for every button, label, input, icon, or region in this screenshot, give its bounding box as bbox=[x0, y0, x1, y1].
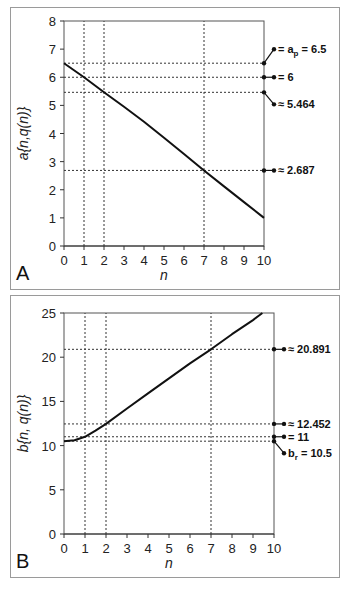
x-tick-label: 8 bbox=[228, 541, 235, 556]
chart-panel-a: 012345678910012345678na{n,q(n)}A= ap = 6… bbox=[15, 14, 326, 284]
annotation-marker bbox=[272, 102, 276, 106]
annotation-label: br = 10.5 bbox=[288, 447, 332, 462]
y-axis-label: b{n, q(n)} bbox=[15, 394, 31, 452]
annotation-marker bbox=[282, 435, 286, 439]
x-tick-label: 7 bbox=[207, 541, 214, 556]
y-tick-label: 3 bbox=[49, 155, 56, 170]
panel-label: B bbox=[16, 550, 29, 572]
x-tick-label: 9 bbox=[249, 541, 256, 556]
y-tick-label: 5 bbox=[49, 483, 56, 498]
x-tick-label: 4 bbox=[144, 541, 151, 556]
y-tick-label: 25 bbox=[42, 306, 56, 321]
annotation-marker bbox=[282, 422, 286, 426]
annotation-leader bbox=[264, 49, 274, 63]
x-tick-label: 6 bbox=[186, 541, 193, 556]
annotation-label: ≈ 5.464 bbox=[278, 98, 316, 110]
x-tick-label: 10 bbox=[267, 541, 281, 556]
x-axis-label: n bbox=[160, 267, 168, 283]
x-tick-label: 1 bbox=[80, 253, 87, 268]
y-axis-label: a{n,q(n)} bbox=[15, 106, 31, 160]
x-tick-label: 5 bbox=[160, 253, 167, 268]
annotation-label: = 6 bbox=[278, 71, 294, 83]
annotation-marker bbox=[272, 47, 276, 51]
annotation-label: = 11 bbox=[288, 431, 309, 443]
annotation-label: = ap = 6.5 bbox=[278, 43, 326, 58]
y-tick-label: 6 bbox=[49, 70, 56, 85]
y-tick-label: 7 bbox=[49, 42, 56, 57]
x-tick-label: 6 bbox=[180, 253, 187, 268]
y-tick-label: 1 bbox=[49, 211, 56, 226]
data-line bbox=[64, 63, 264, 218]
x-tick-label: 8 bbox=[220, 253, 227, 268]
y-tick-label: 0 bbox=[49, 239, 56, 254]
annotation-label: ≈ 12.452 bbox=[288, 418, 331, 430]
y-tick-label: 15 bbox=[42, 394, 56, 409]
y-tick-label: 20 bbox=[42, 350, 56, 365]
annotation-label: ≈ 20.891 bbox=[288, 343, 331, 355]
x-tick-label: 0 bbox=[60, 253, 67, 268]
annotation-marker bbox=[272, 168, 276, 172]
x-tick-label: 4 bbox=[140, 253, 147, 268]
x-tick-label: 2 bbox=[102, 541, 109, 556]
chart-panel-b: 0123456789100510152025nb{n, q(n)}B≈ 20.8… bbox=[15, 306, 332, 572]
x-tick-label: 3 bbox=[123, 541, 130, 556]
y-tick-label: 2 bbox=[49, 183, 56, 198]
x-tick-label: 3 bbox=[120, 253, 127, 268]
annotation-marker bbox=[282, 347, 286, 351]
x-tick-label: 9 bbox=[240, 253, 247, 268]
x-tick-label: 2 bbox=[100, 253, 107, 268]
x-tick-label: 1 bbox=[81, 541, 88, 556]
y-tick-label: 0 bbox=[49, 527, 56, 542]
x-tick-label: 10 bbox=[257, 253, 271, 268]
x-tick-label: 0 bbox=[60, 541, 67, 556]
chart-canvas: 012345678910012345678na{n,q(n)}A= ap = 6… bbox=[0, 0, 346, 590]
x-tick-label: 5 bbox=[165, 541, 172, 556]
y-tick-label: 5 bbox=[49, 98, 56, 113]
y-tick-label: 10 bbox=[42, 439, 56, 454]
panel-label: A bbox=[16, 262, 30, 284]
data-line bbox=[64, 313, 262, 441]
y-tick-label: 4 bbox=[49, 127, 56, 142]
annotation-marker bbox=[272, 75, 276, 79]
y-tick-label: 8 bbox=[49, 14, 56, 29]
annotation-marker bbox=[282, 451, 286, 455]
x-tick-label: 7 bbox=[200, 253, 207, 268]
annotation-label: ≈ 2.687 bbox=[278, 164, 315, 176]
plot-area bbox=[64, 21, 264, 246]
x-axis-label: n bbox=[165, 555, 173, 571]
annotation-leader bbox=[274, 441, 284, 453]
annotation-leader bbox=[264, 92, 274, 104]
